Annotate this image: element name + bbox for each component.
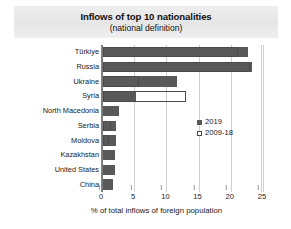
legend-item-2019: 2019	[197, 117, 233, 127]
category-label: Moldova	[71, 137, 99, 145]
category-label: Ukraine	[74, 78, 99, 86]
category-label: Syria	[82, 92, 99, 100]
legend-label-2009-18: 2009-18	[205, 128, 233, 138]
plot-container: TürkiyeRussiaUkraineSyriaNorth Macedonia…	[14, 41, 278, 200]
bar-row: Russia	[102, 60, 261, 75]
x-tick-label: 15	[193, 192, 201, 202]
bar-rows: TürkiyeRussiaUkraineSyriaNorth Macedonia…	[102, 45, 261, 192]
x-tick-label: 5	[131, 192, 135, 202]
bar-row: Moldova	[102, 133, 261, 148]
chart-legend: 2019 2009-18	[197, 117, 233, 139]
x-axis-ticks: 0510152025	[101, 192, 262, 204]
category-label: North Macedonia	[43, 107, 99, 115]
bar-row: Syria	[102, 89, 261, 104]
chart-title-banner: Inflows of top 10 nationalities (nationa…	[14, 6, 278, 38]
category-label: Russia	[76, 63, 99, 71]
bar-2019	[103, 150, 115, 160]
x-tick-label: 10	[161, 192, 169, 202]
category-label: Türkiye	[75, 48, 99, 56]
category-label: United States	[55, 166, 99, 174]
legend-label-2019: 2019	[205, 117, 222, 127]
plot-area: TürkiyeRussiaUkraineSyriaNorth Macedonia…	[101, 45, 262, 192]
bar-2019	[103, 179, 113, 189]
x-axis-label: % of total inflows of foreign population	[0, 205, 291, 216]
x-tick-mark	[258, 185, 259, 190]
x-tick-label: 25	[258, 192, 266, 202]
x-tick-mark	[226, 185, 227, 190]
legend-swatch-open-icon	[197, 131, 202, 136]
gridline	[263, 45, 264, 192]
bar-row: United States	[102, 163, 261, 178]
bar-row: Türkiye	[102, 45, 261, 60]
bar-2009-18	[103, 135, 109, 145]
x-tick-label: 20	[226, 192, 234, 202]
category-label: Kazakhstan	[60, 151, 99, 159]
x-axis-label-text: % of total inflows of foreign population	[69, 206, 222, 215]
bar-2009-18	[103, 62, 250, 72]
bar-2019	[103, 106, 119, 116]
bar-2009-18	[103, 76, 139, 86]
chart-figure: Inflows of top 10 nationalities (nationa…	[0, 0, 291, 229]
x-tick-mark	[131, 185, 132, 190]
bar-row: North Macedonia	[102, 104, 261, 119]
bar-row: Kazakhstan	[102, 148, 261, 163]
x-tick-mark	[99, 185, 100, 190]
bar-row: China	[102, 177, 261, 192]
category-label: China	[80, 181, 99, 189]
legend-swatch-filled-icon	[197, 120, 202, 125]
bar-2009-18	[103, 91, 186, 101]
bar-2009-18	[103, 47, 238, 57]
x-tick-label: 0	[99, 192, 103, 202]
bar-2009-18	[103, 121, 111, 131]
chart-subtitle: (national definition)	[110, 23, 183, 34]
x-tick-mark	[161, 185, 162, 190]
x-tick-mark	[193, 185, 194, 190]
bar-row: Serbia	[102, 119, 261, 134]
category-label: Serbia	[78, 122, 99, 130]
bar-row: Ukraine	[102, 74, 261, 89]
bar-2019	[103, 165, 115, 175]
chart-title: Inflows of top 10 nationalities	[80, 11, 211, 23]
legend-item-2009-18: 2009-18	[197, 128, 233, 138]
